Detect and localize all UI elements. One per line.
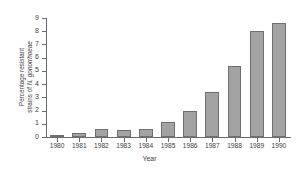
bar-1988 <box>228 66 242 137</box>
bar-1986 <box>183 111 197 137</box>
y-axis-tick: 7 <box>42 44 46 45</box>
y-axis-tick-label: 6 <box>35 53 39 61</box>
y-axis-tick-label: 5 <box>35 66 39 74</box>
y-axis-title-line-2: strains of N. gonorrhoeae <box>26 41 34 113</box>
x-axis-tick-label-1987: 1987 <box>205 142 220 150</box>
bar-1981 <box>72 133 86 137</box>
y-axis-tick: 4 <box>42 84 46 85</box>
y-axis-title-line-2-prefix: strains of <box>26 85 33 113</box>
y-axis-tick-label: 4 <box>35 80 39 88</box>
y-axis-tick: 2 <box>42 111 46 112</box>
y-axis-title-text: Percentage resistant strains of N. gonor… <box>18 41 33 113</box>
y-axis-tick: 5 <box>42 71 46 72</box>
x-axis-tick-label-1990: 1990 <box>272 142 287 150</box>
y-axis-tick-label: 0 <box>35 133 39 141</box>
x-axis-tick-label-1984: 1984 <box>138 142 153 150</box>
y-axis-tick-label: 8 <box>35 27 39 35</box>
x-axis-tick-label-1983: 1983 <box>116 142 131 150</box>
x-axis-tick-label-1985: 1985 <box>161 142 176 150</box>
x-axis-tick-label-1986: 1986 <box>183 142 198 150</box>
y-axis-title-species-name: N. gonorrhoeae <box>26 41 33 85</box>
y-axis-tick-label: 3 <box>35 93 39 101</box>
y-axis-tick: 1 <box>42 124 46 125</box>
bar-chart-figure: Percentage resistant strains of N. gonor… <box>0 0 299 173</box>
bar-1990 <box>272 23 286 137</box>
y-axis-tick-label: 1 <box>35 119 39 127</box>
y-axis-title-line-1: Percentage resistant <box>18 41 26 113</box>
bar-1984 <box>139 129 153 137</box>
y-axis-tick: 6 <box>42 58 46 59</box>
bar-1989 <box>250 31 264 137</box>
plot-area: 0123456789 <box>46 18 290 137</box>
x-axis-tick-label-1980: 1980 <box>50 142 65 150</box>
x-axis-tick-label-1989: 1989 <box>249 142 264 150</box>
y-axis-tick: 3 <box>42 97 46 98</box>
x-axis-tick-label-1982: 1982 <box>94 142 109 150</box>
y-axis-tick-label: 7 <box>35 40 39 48</box>
y-axis-tick: 0 <box>42 137 46 138</box>
y-axis-tick-label: 9 <box>35 14 39 22</box>
bar-1985 <box>161 122 175 137</box>
bar-1980 <box>50 135 64 137</box>
x-axis-tick-label-1988: 1988 <box>227 142 242 150</box>
y-axis-tick: 9 <box>42 18 46 19</box>
bar-1987 <box>205 92 219 137</box>
x-axis-tick-label-1981: 1981 <box>72 142 87 150</box>
y-axis-tick-label: 2 <box>35 106 39 114</box>
bar-1983 <box>117 130 131 137</box>
y-axis-tick: 8 <box>42 31 46 32</box>
bar-1982 <box>95 129 109 137</box>
x-axis-title: Year <box>0 155 299 163</box>
